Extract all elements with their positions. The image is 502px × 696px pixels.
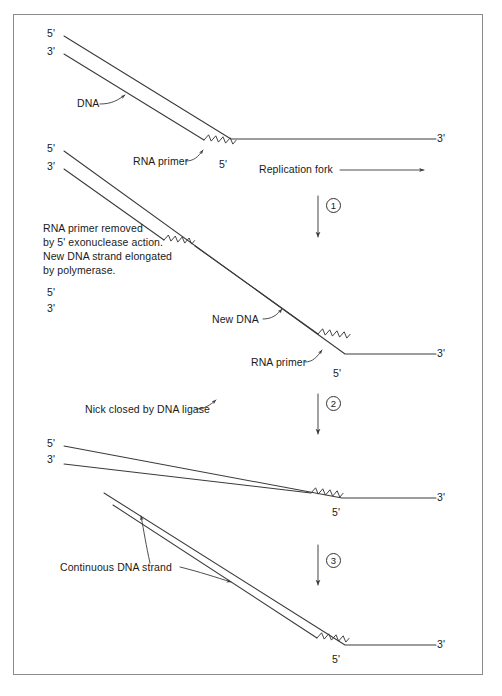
panel-1-dna-pointer	[100, 95, 125, 104]
step-1-badge: 1	[326, 198, 341, 213]
panel-4-right-3prime: 3'	[437, 638, 445, 652]
panel-1-template-strand	[64, 36, 436, 139]
panel-2-rna-primer-label: RNA primer	[251, 356, 306, 370]
caption-line-3: New DNA strand elongated	[43, 250, 172, 264]
panel-4-fork-5prime: 5'	[332, 653, 340, 667]
replication-fork-label: Replication fork	[259, 163, 333, 177]
continuous-dna-strand-label: Continuous DNA strand	[60, 561, 172, 575]
panel-4-continuous-pointer-down	[180, 567, 231, 582]
panel-3-right-3prime: 3'	[437, 491, 445, 505]
panel-3-fork-5prime: 5'	[332, 506, 340, 520]
panel-4-left-3prime: 3'	[47, 453, 55, 467]
panel-1-left-5prime: 5'	[47, 27, 55, 41]
panel-2-left-5prime: 5'	[47, 142, 55, 156]
panel-2-left-3prime: 3'	[47, 160, 55, 174]
panel-2-right-3prime: 3'	[437, 347, 445, 361]
panel-3-left-5prime: 5'	[47, 286, 55, 300]
panel-4-left-5prime: 5'	[47, 437, 55, 451]
panel-2-fork-5prime: 5'	[333, 367, 341, 381]
panel-2-rna-primer-zigzag	[318, 329, 350, 338]
step-3-badge: 3	[326, 553, 341, 568]
panel-1-left-3prime: 3'	[47, 45, 55, 59]
panel-4-continuous-pointer-up	[141, 516, 150, 563]
caption-line-2: by 5' exonuclease action.	[43, 236, 163, 250]
panel-1-fork-5prime: 5'	[219, 158, 227, 172]
new-dna-label: New DNA	[212, 313, 259, 327]
panel-3-left-3prime: 3'	[47, 302, 55, 316]
panel-1-rna-primer-pointer	[186, 150, 203, 161]
diagram-canvas	[0, 0, 502, 696]
dna-replication-figure: 5' 3' DNA RNA primer 5' 3' Replication f…	[0, 0, 502, 696]
panel-1-rna-primer-zigzag	[204, 135, 236, 144]
caption-line-1: RNA primer removed	[43, 222, 143, 236]
panel-1-rna-primer-label: RNA primer	[133, 155, 188, 169]
step-2-badge: 2	[326, 396, 341, 411]
panel-3-template-strand-hidden	[64, 446, 345, 650]
panel-3-strands	[64, 443, 436, 650]
panel-2-rna-primer-pointer	[305, 350, 322, 362]
caption-line-4: by polymerase.	[43, 264, 116, 278]
nick-closed-label: Nick closed by DNA ligase	[85, 403, 210, 417]
panel-2-new-dna-pointer	[263, 309, 282, 319]
panel-3-new-strand	[64, 464, 311, 493]
panel-1-right-3prime: 3'	[437, 132, 445, 146]
panel-3-template-strand	[64, 446, 436, 498]
panel-2-rna-primer-zigzag-removed	[164, 235, 195, 244]
dna-label: DNA	[77, 97, 99, 111]
panel-1-strands	[64, 36, 436, 144]
